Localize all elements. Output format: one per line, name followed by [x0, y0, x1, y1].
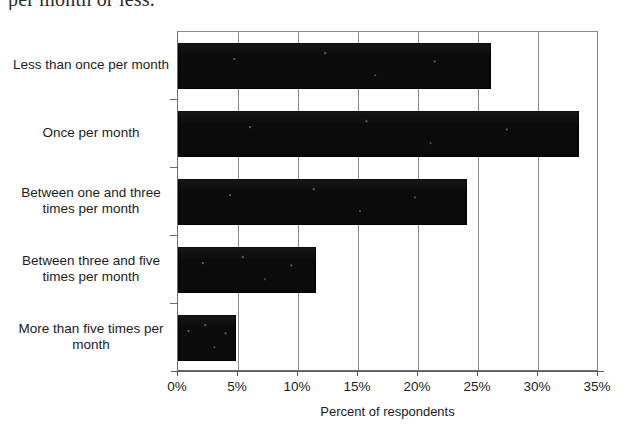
- category-axis: Less than once per monthOnce per monthBe…: [10, 31, 176, 371]
- x-axis-tick-label: 35%: [567, 379, 627, 394]
- bar: [178, 315, 236, 361]
- x-axis-tick: [177, 371, 178, 376]
- category-label: Less than once per month: [10, 57, 172, 73]
- x-axis-tick: [597, 371, 598, 376]
- y-axis-tick: [170, 303, 177, 304]
- x-axis-tick: [237, 371, 238, 376]
- x-axis-tick: [417, 371, 418, 376]
- x-axis-tick-label: 5%: [207, 379, 267, 394]
- bar-chart-figure: Less than once per monthOnce per monthBe…: [0, 0, 634, 441]
- x-axis-line: [171, 371, 604, 372]
- y-axis-tick: [170, 99, 177, 100]
- x-axis-tick-label: 15%: [327, 379, 387, 394]
- x-axis-tick: [297, 371, 298, 376]
- category-label: Between three and five times per month: [10, 253, 172, 285]
- x-axis-tick-label: 25%: [447, 379, 507, 394]
- gridline-30: [538, 32, 539, 370]
- category-label: Between one and three times per month: [10, 185, 172, 217]
- y-axis-tick: [170, 167, 177, 168]
- x-axis-tick: [537, 371, 538, 376]
- x-axis-tick: [357, 371, 358, 376]
- x-axis-tick-label: 30%: [507, 379, 567, 394]
- bar: [178, 179, 467, 225]
- x-axis-tick-label: 0%: [147, 379, 207, 394]
- bar: [178, 111, 579, 157]
- x-axis-tick-label: 10%: [267, 379, 327, 394]
- category-label: More than five times per month: [10, 321, 172, 353]
- bar: [178, 43, 491, 89]
- x-axis-tick: [477, 371, 478, 376]
- y-axis-tick: [170, 235, 177, 236]
- x-axis-tick-label: 20%: [387, 379, 447, 394]
- x-axis-title: Percent of respondents: [177, 404, 598, 419]
- category-label: Once per month: [10, 125, 172, 141]
- bar: [178, 247, 316, 293]
- plot-area: [177, 31, 598, 371]
